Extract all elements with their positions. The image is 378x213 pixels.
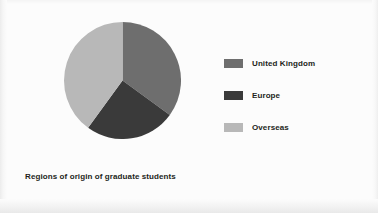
slide-edge-right xyxy=(372,0,378,213)
slide-edge-top xyxy=(0,0,378,4)
legend-label-united-kingdom: United Kingdom xyxy=(252,59,315,68)
legend-label-europe: Europe xyxy=(252,91,280,100)
slide-canvas: United Kingdom Europe Overseas Regions o… xyxy=(0,0,378,213)
legend-swatch-icon-united-kingdom xyxy=(224,59,243,68)
legend-item-europe[interactable]: Europe xyxy=(224,89,354,102)
chart-caption: Regions of origin of graduate students xyxy=(25,172,176,181)
legend-swatch-icon-europe xyxy=(224,91,243,100)
slide-edge-bottom xyxy=(0,199,378,213)
legend-item-overseas[interactable]: Overseas xyxy=(224,121,354,134)
legend-swatch-icon-overseas xyxy=(224,123,243,132)
chart-legend: United Kingdom Europe Overseas xyxy=(224,57,354,134)
pie-chart xyxy=(64,22,181,139)
legend-label-overseas: Overseas xyxy=(252,123,289,132)
pie-chart-svg xyxy=(64,22,181,139)
legend-item-united-kingdom[interactable]: United Kingdom xyxy=(224,57,354,70)
slide-edge-left xyxy=(0,0,7,213)
